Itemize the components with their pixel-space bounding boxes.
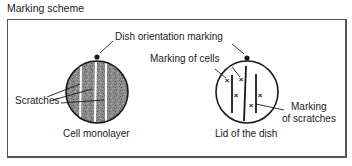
cell-mark-x: × <box>234 91 239 100</box>
cell-mark-x: × <box>249 101 254 110</box>
orientation-marking-label: Dish orientation marking <box>115 31 223 42</box>
marking-of-cells-label: Marking of cells <box>150 53 219 64</box>
marking-of-scratches-label-line2: of scratches <box>282 113 336 124</box>
right-orientation-marker <box>232 44 250 61</box>
lid-of-dish-label: Lid of the dish <box>215 128 277 139</box>
cell-mark-x: × <box>258 91 263 100</box>
marking-scheme-diagram: × × × × × <box>0 0 352 166</box>
scratches-label: Scratches <box>15 95 59 106</box>
marking-of-scratches-label-line1: Marking <box>291 101 327 112</box>
left-orientation-marker <box>94 41 113 60</box>
cell-monolayer-dish <box>66 60 128 124</box>
scratch-line <box>95 60 96 124</box>
cell-monolayer-label: Cell monolayer <box>63 128 130 139</box>
lid-dish: × × × × × <box>216 61 278 123</box>
